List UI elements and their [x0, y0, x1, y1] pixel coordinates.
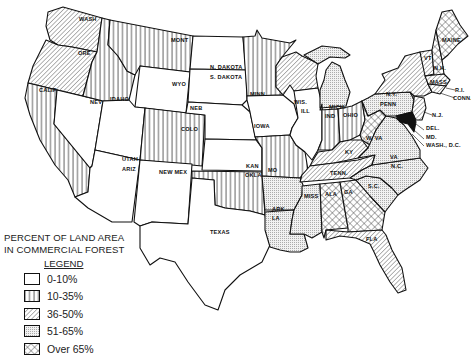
crosshatch-swatch-icon — [24, 343, 40, 355]
legend-title-line2: IN COMMERCIAL FOREST — [4, 244, 144, 256]
label-mich: MICH. — [329, 104, 346, 110]
vertical-lines-swatch-icon — [24, 290, 40, 302]
legend: PERCENT OF LAND AREA IN COMMERCIAL FORES… — [4, 232, 144, 358]
label-utah: UTAH — [122, 156, 138, 162]
label-nj: N.J. — [432, 112, 443, 118]
label-la: LA — [272, 215, 280, 221]
state-wyoming — [135, 66, 190, 113]
label-wis: WIS. — [294, 99, 307, 105]
label-idaho: IDAHO — [110, 96, 129, 102]
label-sc: S.C. — [368, 183, 380, 189]
label-ariz: ARIZ — [122, 166, 136, 172]
state-colorado — [140, 108, 205, 166]
dots-swatch-icon — [24, 325, 40, 337]
label-md: MD. — [426, 134, 437, 140]
label-ny: N.Y. — [386, 91, 397, 97]
state-utah — [95, 100, 145, 160]
label-ndak: N. DAKOTA — [210, 64, 242, 70]
legend-heading: LEGEND — [44, 258, 144, 269]
label-ky: KY — [345, 149, 353, 155]
label-newmex: NEW MEX — [159, 169, 187, 175]
state-iowa — [247, 95, 298, 137]
label-dc: WASH., D.C. — [426, 142, 461, 148]
label-wyo: WYO — [172, 81, 186, 87]
label-ala: ALA — [325, 191, 337, 197]
label-okla: OKLA — [245, 172, 262, 178]
label-ri: R.I. — [455, 87, 465, 93]
legend-item-36-50: 36-50% — [24, 305, 144, 323]
legend-label: 51-65% — [47, 325, 83, 337]
label-del: DEL. — [426, 125, 440, 131]
label-penn: PENN — [380, 101, 396, 107]
legend-label: 10-35% — [47, 290, 83, 302]
label-mont: MONT — [171, 37, 189, 43]
label-miss: MISS — [304, 193, 319, 199]
label-ga: GA — [344, 189, 353, 195]
legend-item-over-65: Over 65% — [24, 340, 144, 358]
label-neb: NEB — [190, 105, 202, 111]
label-tenn: TENN. — [330, 170, 348, 176]
label-ind: IND — [325, 113, 335, 119]
label-calif: CALIF — [39, 87, 57, 93]
label-mo: MO — [268, 167, 278, 173]
label-mass: MASS — [430, 79, 447, 85]
label-ark: ARK — [272, 206, 285, 212]
state-maine — [436, 10, 468, 60]
legend-item-51-65: 51-65% — [24, 323, 144, 341]
legend-label: Over 65% — [47, 343, 94, 355]
label-iowa: IOWA — [254, 123, 270, 129]
label-ill: ILL — [301, 108, 310, 114]
label-nev: NEV — [90, 99, 102, 105]
label-kan: KAN — [246, 163, 259, 169]
label-conn: CONN. — [453, 95, 471, 101]
label-vt: VT — [424, 55, 432, 61]
label-texas: TEXAS — [210, 229, 230, 235]
label-nc: N.C. — [391, 163, 403, 169]
label-va: VA — [390, 154, 398, 160]
legend-item-10-35: 10-35% — [24, 288, 144, 306]
label-nh: N.H. — [434, 65, 446, 71]
label-colo: COLO — [181, 126, 198, 132]
label-ore: ORE — [78, 50, 91, 56]
legend-item-0-10: 0-10% — [24, 270, 144, 288]
label-sdak: S. DAKOTA — [210, 74, 242, 80]
label-ohio: OHIO — [343, 112, 359, 118]
legend-title-line1: PERCENT OF LAND AREA — [4, 232, 144, 244]
blank-swatch-icon — [24, 273, 40, 285]
label-wash: WASH — [79, 16, 97, 22]
diagonal-lines-swatch-icon — [24, 308, 40, 320]
label-maine: MAINE — [442, 37, 461, 43]
legend-label: 36-50% — [47, 308, 83, 320]
label-minn: MINN — [250, 91, 265, 97]
legend-label: 0-10% — [47, 273, 77, 285]
label-fla: FLA — [366, 236, 377, 242]
label-wva: W. VA — [366, 135, 382, 141]
